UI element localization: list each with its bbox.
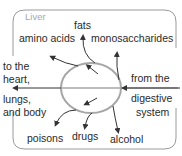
amino-acids-arrow: [52, 57, 78, 66]
label-fats: fats: [74, 19, 91, 32]
label-poisons: poisons: [27, 132, 63, 145]
label-from-the: from the: [131, 72, 170, 85]
alcohol-arrow: [113, 106, 118, 131]
drugs-arrow: [85, 113, 92, 127]
label-to-the: to the: [3, 60, 29, 73]
label-alcohol: alcohol: [110, 133, 143, 146]
label-drugs: drugs: [72, 130, 98, 143]
label-monosaccharides: monosaccharides: [91, 32, 173, 45]
label-amino-acids: amino acids: [19, 32, 75, 45]
label-heart: heart,: [3, 73, 30, 86]
label-lungs: lungs,: [3, 93, 31, 106]
label-digestive: digestive: [131, 92, 172, 105]
inner-up-arrow: [88, 66, 98, 74]
liver-title: Liver: [25, 11, 46, 22]
label-system: system: [136, 106, 169, 119]
poisons-arrow: [56, 110, 76, 124]
inner-down-arrow: [86, 98, 97, 104]
label-and-body: and body: [3, 106, 46, 119]
